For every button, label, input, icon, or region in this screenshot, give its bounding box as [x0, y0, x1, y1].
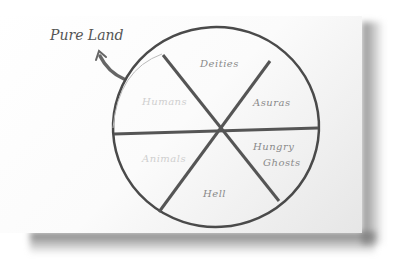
segment-label-hell: Hell [202, 188, 226, 199]
wheel-circle [108, 22, 324, 233]
wheel-diagram: Pure Land Deities Asuras Hungry Ghosts H… [0, 0, 396, 267]
annotation-pure-land: Pure Land [49, 27, 124, 43]
segment-label-animals: Animals [141, 153, 186, 164]
segment-label-deities: Deities [199, 58, 239, 69]
segment-label-hungry: Hungry [252, 141, 294, 152]
segment-label-humans: Humans [141, 96, 187, 107]
curved-arrow-icon [96, 51, 124, 79]
segment-label-asuras: Asuras [252, 97, 291, 108]
segment-label-ghosts: Ghosts [263, 157, 301, 168]
